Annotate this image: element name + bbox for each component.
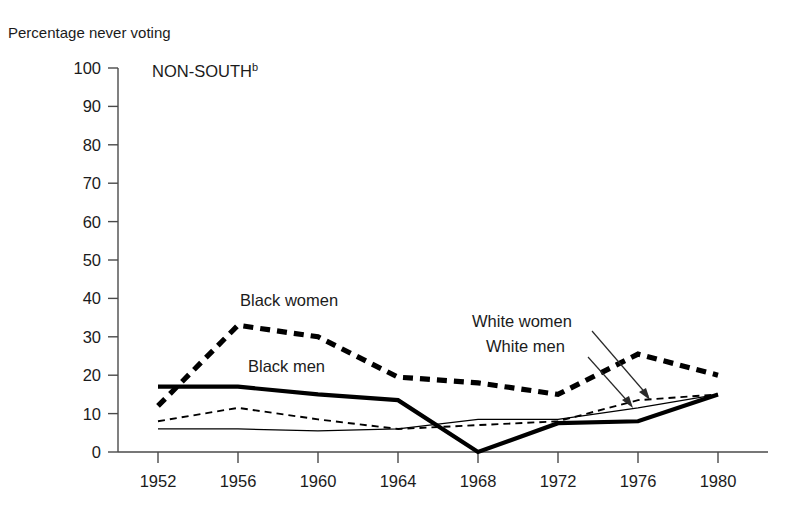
x-tick-label: 1980	[700, 472, 737, 490]
x-tick-label: 1968	[460, 472, 497, 490]
x-tick-label: 1956	[220, 472, 257, 490]
y-tick-label: 90	[83, 97, 101, 115]
x-tick-label: 1952	[140, 472, 177, 490]
white-women-label: White women	[472, 312, 572, 330]
y-tick-label: 50	[83, 251, 101, 269]
y-axis-tick-labels: 100 90 80 70 60 50 40 30 20 10 0	[73, 59, 101, 461]
y-tick-label: 60	[83, 213, 101, 231]
white-men-leader-arrow	[588, 357, 633, 408]
y-axis: 100 90 80 70 60 50 40 30 20 10 0	[73, 59, 118, 461]
y-tick-label: 40	[83, 289, 101, 307]
x-axis-tick-labels: 1952 1956 1960 1964 1968 1972 1976 1980	[140, 472, 737, 490]
black-women-label: Black women	[240, 291, 338, 309]
y-tick-label: 70	[83, 174, 101, 192]
x-tick-label: 1972	[540, 472, 577, 490]
x-axis-ticks	[158, 452, 718, 463]
series-line-black-men	[158, 387, 718, 452]
y-axis-ticks	[108, 68, 118, 452]
series-annotations: Black women Black men White women White …	[240, 291, 650, 408]
white-men-label: White men	[486, 337, 565, 355]
x-tick-label: 1964	[380, 472, 417, 490]
x-tick-label: 1976	[620, 472, 657, 490]
panel-label: NON-SOUTHb	[152, 61, 258, 80]
y-tick-label: 20	[83, 366, 101, 384]
chart-title: Percentage never voting	[8, 24, 171, 41]
y-tick-label: 0	[92, 443, 101, 461]
series-layer	[158, 325, 718, 452]
panel-label-text: NON-SOUTH	[152, 62, 252, 80]
chart-container: Percentage never voting NON-SOUTHb 100	[0, 0, 798, 516]
y-tick-label: 100	[73, 59, 101, 77]
y-tick-label: 30	[83, 328, 101, 346]
series-line-black-women	[158, 325, 718, 406]
y-tick-label: 10	[83, 405, 101, 423]
x-tick-label: 1960	[300, 472, 337, 490]
white-women-leader-arrow	[592, 331, 650, 400]
black-men-label: Black men	[248, 357, 325, 375]
x-axis: 1952 1956 1960 1964 1968 1972 1976 1980	[118, 452, 768, 490]
y-tick-label: 80	[83, 136, 101, 154]
panel-label-superscript: b	[252, 61, 258, 73]
line-chart-svg: Percentage never voting NON-SOUTHb 100	[0, 0, 798, 516]
